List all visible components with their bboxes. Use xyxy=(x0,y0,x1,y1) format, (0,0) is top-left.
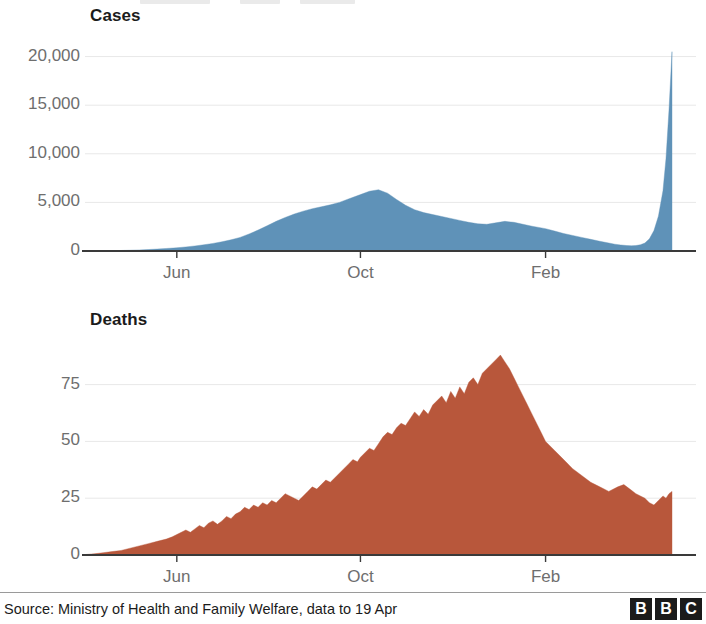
deaths-xtick-label: Oct xyxy=(347,567,373,587)
cases-ytick-label: 20,000 xyxy=(0,46,80,66)
deaths-area-chart-svg xyxy=(0,332,706,562)
cases-ytick-label: 5,000 xyxy=(0,191,80,211)
bbc-covid-chart-page: Cases 05,00010,00015,00020,000JunOctFeb … xyxy=(0,0,706,624)
source-note: Source: Ministry of Health and Family We… xyxy=(4,601,397,617)
bbc-logo: B B C xyxy=(630,598,702,620)
cases-plot-area xyxy=(0,28,706,258)
cases-ytick-label: 0 xyxy=(0,240,80,260)
deaths-chart-panel: Deaths 0255075JunOctFeb xyxy=(0,310,706,590)
deaths-plot-area xyxy=(0,332,706,562)
deaths-ytick-label: 75 xyxy=(0,374,80,394)
deaths-xtick-label: Jun xyxy=(163,567,190,587)
chart-footer: Source: Ministry of Health and Family We… xyxy=(0,592,706,624)
deaths-xtick-label: Feb xyxy=(531,567,560,587)
cases-ytick-label: 15,000 xyxy=(0,94,80,114)
cases-chart-title: Cases xyxy=(90,6,141,26)
cases-chart-panel: Cases 05,00010,00015,00020,000JunOctFeb xyxy=(0,6,706,286)
deaths-ytick-label: 25 xyxy=(0,487,80,507)
cases-ytick-label: 10,000 xyxy=(0,143,80,163)
bbc-logo-block-3: C xyxy=(680,598,702,620)
bbc-logo-block-2: B xyxy=(655,598,677,620)
cases-xtick-label: Jun xyxy=(163,263,190,283)
cases-xtick-label: Feb xyxy=(531,263,560,283)
cases-area-chart-svg xyxy=(0,28,706,258)
clipped-headline-remnant xyxy=(0,0,706,5)
cases-xtick-label: Oct xyxy=(347,263,373,283)
deaths-ytick-label: 0 xyxy=(0,544,80,564)
deaths-ytick-label: 50 xyxy=(0,430,80,450)
deaths-chart-title: Deaths xyxy=(90,310,147,330)
bbc-logo-block-1: B xyxy=(630,598,652,620)
